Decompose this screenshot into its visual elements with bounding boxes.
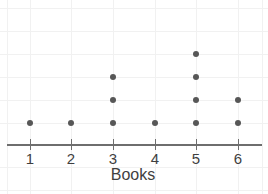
- data-dot: [68, 120, 74, 126]
- grid-line-horizontal: [0, 123, 268, 124]
- grid-line-vertical: [7, 0, 8, 194]
- grid-line-horizontal: [0, 77, 268, 78]
- axis-tick-mark: [71, 139, 72, 150]
- data-dot: [235, 97, 241, 103]
- data-dot: [110, 120, 116, 126]
- data-dot: [193, 97, 199, 103]
- axis-tick-mark: [196, 139, 197, 150]
- x-axis-line: [7, 144, 262, 146]
- data-dot: [235, 120, 241, 126]
- axis-tick-mark: [113, 139, 114, 150]
- grid-line-horizontal: [0, 8, 268, 9]
- x-axis-title: Books: [0, 166, 268, 184]
- data-dot: [27, 120, 33, 126]
- dot-plot-figure: 123456 Books: [0, 0, 268, 194]
- data-dot: [110, 74, 116, 80]
- grid-line-vertical: [262, 0, 263, 194]
- axis-tick-mark: [238, 139, 239, 150]
- x-axis-title-label: Books: [111, 166, 155, 184]
- grid-line-horizontal: [0, 190, 268, 191]
- axis-tick-mark: [30, 139, 31, 150]
- data-dot: [193, 51, 199, 57]
- data-dot: [193, 74, 199, 80]
- data-dot: [193, 120, 199, 126]
- data-dot: [110, 97, 116, 103]
- grid-line-horizontal: [0, 31, 268, 32]
- data-dot: [152, 120, 158, 126]
- axis-tick-mark: [155, 139, 156, 150]
- grid-line-horizontal: [0, 54, 268, 55]
- grid-line-horizontal: [0, 100, 268, 101]
